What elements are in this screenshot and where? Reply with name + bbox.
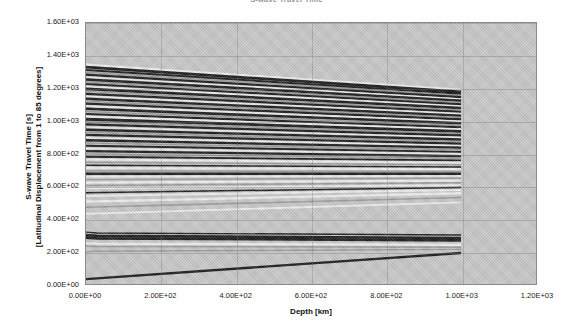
gridline-vertical (161, 23, 162, 284)
y-axis-title-line1: S-wave Travel Time [s] (24, 22, 34, 292)
x-axis-title: Depth [km] (85, 307, 537, 316)
seismic-trace (86, 232, 461, 235)
seismic-trace (86, 246, 461, 247)
gridline-horizontal (86, 253, 536, 254)
gridline-horizontal (86, 89, 536, 90)
gridline-vertical (237, 23, 238, 284)
seismic-trace (86, 178, 461, 179)
seismic-trace (86, 181, 461, 183)
chart-figure: S-wave Travel Time 0.00E+002.00E+024.00E… (0, 0, 573, 330)
x-tick-label: 8.00E+02 (351, 291, 421, 300)
gridline-horizontal (86, 187, 536, 188)
x-tick-label: 4.00E+02 (201, 291, 271, 300)
x-tick-label: 1.20E+03 (502, 291, 572, 300)
seismic-trace (86, 253, 461, 279)
seismic-trace (86, 176, 461, 177)
chart-title: S-wave Travel Time (0, 0, 573, 4)
seismic-trace (86, 168, 461, 169)
x-tick-label: 0.00E+00 (50, 291, 120, 300)
plot-area (85, 22, 537, 285)
gridline-vertical (463, 23, 464, 284)
gridline-vertical (387, 23, 388, 284)
gridline-horizontal (86, 220, 536, 221)
seismic-trace (86, 165, 461, 167)
x-tick-label: 1.00E+03 (427, 291, 497, 300)
seismic-trace (86, 249, 461, 252)
gridline-horizontal (86, 122, 536, 123)
seismic-trace (86, 243, 461, 245)
gridline-vertical (312, 23, 313, 284)
y-axis-title-line2: [Latitudinal Displacement from 1 to 85 d… (34, 22, 44, 292)
seismic-record-section (86, 23, 536, 284)
gridline-horizontal (86, 155, 536, 156)
y-axis-title: S-wave Travel Time [s] [Latitudinal Disp… (24, 22, 44, 292)
seismic-trace (86, 202, 461, 213)
seismic-trace (86, 198, 461, 208)
gridline-horizontal (86, 23, 536, 24)
x-tick-label: 6.00E+02 (276, 291, 346, 300)
gridline-horizontal (86, 56, 536, 57)
x-tick-label: 2.00E+02 (125, 291, 195, 300)
